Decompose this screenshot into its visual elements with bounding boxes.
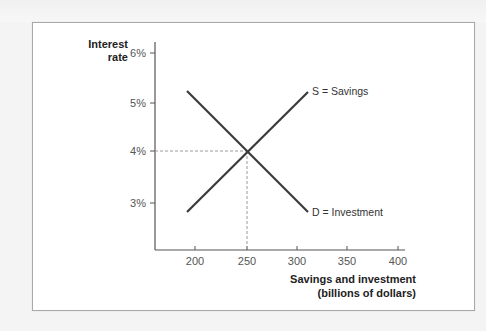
- x-tick-250: 250: [238, 255, 256, 267]
- savings-label: S = Savings: [312, 85, 368, 97]
- x-axis-title-line2: (billions of dollars): [318, 286, 416, 300]
- x-tick-350: 350: [338, 255, 356, 267]
- y-tick-5: 5%: [130, 97, 146, 109]
- y-axis-title-line2: rate: [108, 51, 128, 64]
- x-tick-400: 400: [389, 255, 407, 267]
- x-tick-300: 300: [288, 255, 306, 267]
- x-axis-title: Savings and investment (billions of doll…: [250, 272, 416, 302]
- y-tick-3: 3%: [130, 197, 146, 209]
- y-tick-4: 4%: [130, 145, 146, 157]
- x-ticks: 200 250 300 350 400: [186, 246, 407, 267]
- y-tick-6: 6%: [130, 47, 146, 59]
- x-tick-200: 200: [186, 255, 204, 267]
- y-ticks: 6% 5% 4% 3%: [130, 47, 155, 209]
- investment-label: D = Investment: [312, 206, 383, 218]
- y-axis-title: Interest rate: [60, 38, 128, 68]
- y-axis-title-line1: Interest: [88, 38, 128, 51]
- x-axis-title-line1: Savings and investment: [290, 272, 416, 286]
